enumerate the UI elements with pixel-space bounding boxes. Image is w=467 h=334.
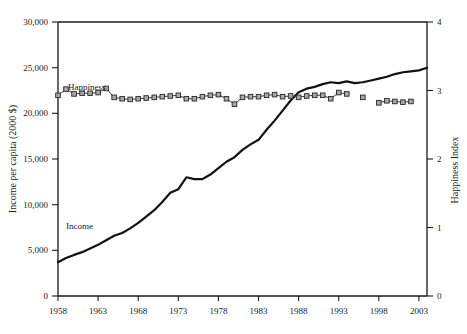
happiness-data-point <box>409 99 414 104</box>
right-axis-title: Happiness Index <box>449 137 460 204</box>
x-tick-label-1973: 1973 <box>169 306 188 316</box>
left-tick-label-5000: 5,000 <box>28 245 49 255</box>
happiness-data-point <box>56 93 61 98</box>
happiness-data-point <box>120 96 125 101</box>
x-tick-label-1968: 1968 <box>129 306 148 316</box>
income-happiness-chart: 0 5,000 10,000 15,000 20,000 25,000 30,0… <box>0 0 467 334</box>
happiness-data-point <box>385 98 390 103</box>
x-tick-label-1983: 1983 <box>250 306 269 316</box>
happiness-data-point <box>240 95 245 100</box>
happiness-data-point <box>256 94 261 99</box>
happiness-data-point <box>336 90 341 95</box>
happiness-data-point <box>344 92 349 97</box>
happiness-data-point <box>200 94 205 99</box>
left-tick-label-25000: 25,000 <box>23 63 48 73</box>
left-tick-label-0: 0 <box>44 291 49 301</box>
happiness-data-point <box>296 95 301 100</box>
x-tick-label-1993: 1993 <box>330 306 349 316</box>
happiness-data-point <box>160 94 165 99</box>
happiness-data-point <box>328 96 333 101</box>
happiness-data-point <box>232 102 237 107</box>
happiness-data-point <box>152 95 157 100</box>
happiness-data-point <box>184 96 189 101</box>
happiness-data-point <box>136 96 141 101</box>
happiness-data-point <box>144 96 149 101</box>
x-tick-label-1998: 1998 <box>370 306 389 316</box>
happiness-data-point <box>377 101 382 106</box>
happiness-data-point <box>320 93 325 98</box>
happiness-data-point <box>272 92 277 97</box>
right-tick-label-1: 1 <box>437 223 442 233</box>
happiness-data-point <box>264 93 269 98</box>
happiness-data-point <box>128 97 133 102</box>
right-axis-ticks: 0 1 2 3 4 <box>427 17 442 301</box>
happiness-data-point <box>216 92 221 97</box>
left-tick-label-20000: 20,000 <box>23 108 48 118</box>
x-tick-label-1988: 1988 <box>290 306 309 316</box>
left-axis-title: Income per capita (2000 $) <box>7 105 19 213</box>
x-tick-label-2003: 2003 <box>410 306 429 316</box>
x-tick-label-1978: 1978 <box>209 306 228 316</box>
left-axis-ticks: 0 5,000 10,000 15,000 20,000 25,000 30,0… <box>23 17 58 301</box>
happiness-series-markers <box>56 86 414 106</box>
happiness-data-point <box>192 96 197 101</box>
happiness-data-point <box>393 99 398 104</box>
happiness-data-point <box>112 95 117 100</box>
x-tick-label-1963: 1963 <box>89 306 108 316</box>
left-tick-label-10000: 10,000 <box>23 200 48 210</box>
happiness-data-point <box>72 92 77 97</box>
right-tick-label-4: 4 <box>437 17 442 27</box>
happiness-data-point <box>401 100 406 105</box>
income-series-label: Income <box>66 221 93 231</box>
right-tick-label-3: 3 <box>437 86 442 96</box>
happiness-data-point <box>280 94 285 99</box>
x-axis-ticks: 1958 1963 1968 1973 1978 1983 1988 1993 … <box>49 296 428 316</box>
happiness-data-point <box>224 96 229 101</box>
chart-figure: 0 5,000 10,000 15,000 20,000 25,000 30,0… <box>0 0 467 334</box>
right-tick-label-2: 2 <box>437 154 442 164</box>
happiness-data-point <box>248 94 253 99</box>
happiness-series-label: Happiness <box>68 82 106 92</box>
happiness-data-point <box>361 95 366 100</box>
axes-frame <box>58 22 427 296</box>
data-series-group <box>56 68 427 263</box>
happiness-data-point <box>288 94 293 99</box>
right-tick-label-0: 0 <box>437 291 442 301</box>
left-tick-label-30000: 30,000 <box>23 17 48 27</box>
happiness-data-point <box>312 93 317 98</box>
left-tick-label-15000: 15,000 <box>23 154 48 164</box>
happiness-data-point <box>208 93 213 98</box>
happiness-data-point <box>168 94 173 99</box>
x-tick-label-1958: 1958 <box>49 306 68 316</box>
happiness-data-point <box>304 94 309 99</box>
happiness-data-point <box>176 93 181 98</box>
